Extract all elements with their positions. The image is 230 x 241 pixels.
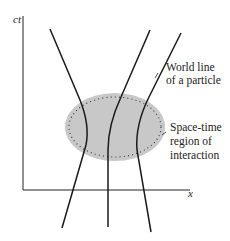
world-line-annotation-2: of a particle: [166, 74, 221, 87]
world-line-annotation-1: World line: [166, 61, 215, 73]
ct-axis-label: ct: [13, 13, 22, 25]
x-axis-label: x: [187, 187, 193, 199]
region-annotation-3: interaction: [170, 149, 219, 161]
region-annotation-1: Space-time: [170, 121, 222, 134]
region-annotation-2: region of: [170, 135, 212, 148]
spacetime-diagram: ct x World line of a particle Space-time…: [0, 0, 230, 241]
interaction-region: [65, 93, 165, 161]
world-line-leader: [155, 73, 158, 78]
